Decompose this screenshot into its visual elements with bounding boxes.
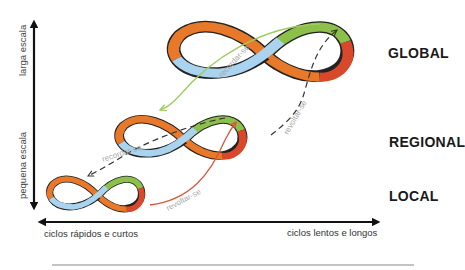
- local-cycle-loop: [50, 179, 142, 209]
- y-axis-label-top: larga escala: [17, 25, 28, 76]
- scale-label-regional: REGIONAL: [389, 134, 465, 150]
- x-axis-label-right: ciclos lentos e longos: [287, 227, 377, 238]
- scale-label-global: GLOBAL: [388, 45, 449, 61]
- global-cycle-loop: [173, 27, 347, 78]
- scale-label-local: LOCAL: [389, 188, 439, 204]
- revolt-label-regional: revoltar-se: [282, 98, 309, 136]
- y-axis-label-bottom: pequena escala: [17, 132, 28, 199]
- x-axis-label-left: ciclos rápidos e curtos: [44, 228, 138, 239]
